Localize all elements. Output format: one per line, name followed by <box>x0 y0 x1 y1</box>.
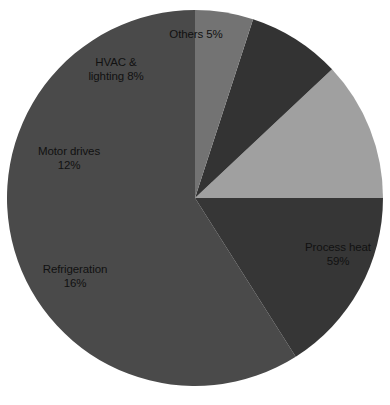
pie-chart: Process heat 59% Refrigeration 16% Motor… <box>0 0 390 405</box>
pie-slices <box>7 10 383 386</box>
pie-chart-canvas <box>0 0 390 405</box>
